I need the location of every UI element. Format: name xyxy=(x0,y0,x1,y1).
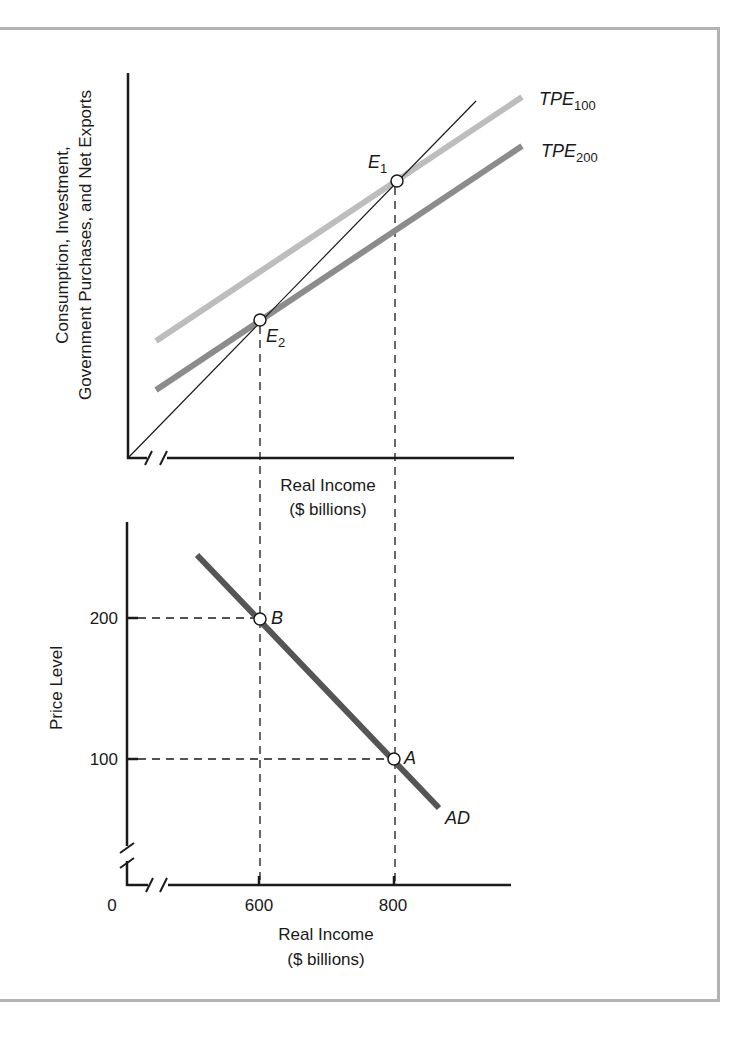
tpe100-label: TPE100 xyxy=(539,89,596,113)
point-e2-marker xyxy=(254,314,266,326)
upper-y-axis-label-line1: Consumption, Investment, xyxy=(53,146,72,343)
point-e1-marker xyxy=(391,175,403,187)
chart-svg: Consumption, Investment, Government Purc… xyxy=(0,0,753,1047)
point-a-label: A xyxy=(403,748,416,768)
point-a-marker xyxy=(388,753,400,765)
y-tick-label-100: 100 xyxy=(90,750,118,769)
upper-y-axis-label-line2: Government Purchases, and Net Exports xyxy=(76,90,95,400)
x-tick-label-800: 800 xyxy=(379,896,407,915)
upper-x-axis-label-line1: Real Income xyxy=(280,476,375,495)
lower-y-axis-label: Price Level xyxy=(47,646,66,730)
upper-x-axis-label-line2: ($ billions) xyxy=(289,500,366,519)
forty-five-degree-line xyxy=(128,101,476,458)
point-b-label: B xyxy=(271,608,283,628)
ad-curve xyxy=(197,555,439,808)
tpe100-line xyxy=(156,97,522,341)
lower-chart: Price Level B A AD 200 100 0 600 800 Rea xyxy=(47,522,511,969)
lower-x-axis-break-mark xyxy=(160,878,167,892)
y-tick-label-200: 200 xyxy=(90,609,118,628)
x-tick-label-600: 600 xyxy=(245,896,273,915)
upper-x-axis-break-mark xyxy=(160,451,167,465)
tpe200-line xyxy=(156,146,522,390)
tpe200-label: TPE200 xyxy=(541,141,598,165)
x-tick-label-0: 0 xyxy=(107,896,116,915)
point-e2-label: E2 xyxy=(266,326,285,350)
point-e1-label: E1 xyxy=(368,152,387,176)
upper-chart: Consumption, Investment, Government Purc… xyxy=(53,73,598,885)
lower-x-axis-label-line2: ($ billions) xyxy=(287,950,364,969)
ad-label: AD xyxy=(444,808,470,828)
point-b-marker xyxy=(254,613,266,625)
lower-x-axis-label-line1: Real Income xyxy=(278,925,373,944)
